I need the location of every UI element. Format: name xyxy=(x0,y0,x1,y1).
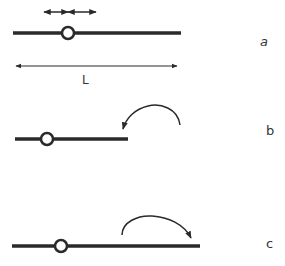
pivot-c xyxy=(55,240,67,252)
counterclockwise-arrow-icon xyxy=(123,105,180,129)
panel-c xyxy=(12,216,200,252)
panel-a xyxy=(13,12,181,66)
length-label: L xyxy=(82,74,89,86)
pivot-a xyxy=(62,27,74,39)
pivot-b xyxy=(41,133,53,145)
diagram-canvas xyxy=(0,0,285,266)
clockwise-arrow-icon xyxy=(122,216,191,238)
panel-label-b: b xyxy=(266,124,274,137)
panel-label-a: a xyxy=(260,35,268,48)
panel-b xyxy=(15,105,180,145)
panel-label-c: c xyxy=(266,237,273,250)
